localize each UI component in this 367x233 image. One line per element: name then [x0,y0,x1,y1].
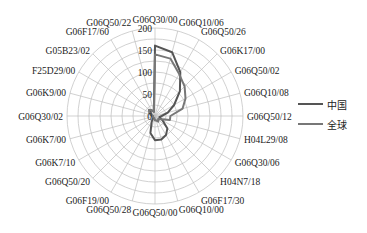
category-label: G06Q50/00 [133,208,178,218]
category-label: F25D29/00 [32,66,76,76]
category-label: H04N7/18 [220,177,260,187]
grid-spoke [155,116,199,192]
legend-item-global: 全球 [298,114,347,134]
category-label: G06Q30/02 [18,112,63,122]
category-label: H04L29/08 [244,135,288,145]
grid-spoke [155,54,217,116]
category-label: G06Q10/08 [244,88,289,98]
category-label: G06F19/00 [66,196,110,206]
category-label: G06Q10/00 [179,205,224,215]
radial-tick-label: 150 [138,46,153,56]
radar-series [149,46,186,141]
legend-line-global [298,123,323,125]
grid-spoke [155,116,231,160]
grid-spoke [79,116,155,160]
category-label: G06K9/00 [26,88,66,98]
category-label: G06Q50/02 [235,66,280,76]
grid-spoke [70,116,155,139]
grid-spoke [93,116,155,178]
grid-spoke [155,116,217,178]
legend-item-china: 中国 [298,94,347,114]
category-label: G06K17/00 [220,46,265,56]
legend: 中国 全球 [298,94,347,134]
category-label: G06Q50/22 [86,18,131,28]
grid-spoke [155,40,199,116]
grid-spoke [155,72,231,116]
category-label: G06F17/60 [66,27,110,37]
category-label: G05B23/02 [46,46,91,56]
category-label: G06Q50/26 [201,27,246,37]
category-label: G06K7/10 [35,158,75,168]
category-label: G06Q50/28 [86,205,131,215]
grid-spoke [111,116,155,192]
legend-label: 全球 [327,117,347,132]
category-label: G06Q30/06 [235,158,280,168]
radial-tick-label: 0 [147,112,152,122]
category-label: G06Q50/20 [45,177,90,187]
radial-tick-label: 200 [138,24,153,34]
category-label: G06Q50/12 [247,112,292,122]
legend-label: 中国 [327,97,347,112]
radial-tick-label: 50 [143,90,153,100]
category-label: G06K7/00 [26,135,66,145]
legend-line-china [298,103,323,105]
grid-spoke [93,54,155,116]
radial-tick-label: 100 [138,68,153,78]
